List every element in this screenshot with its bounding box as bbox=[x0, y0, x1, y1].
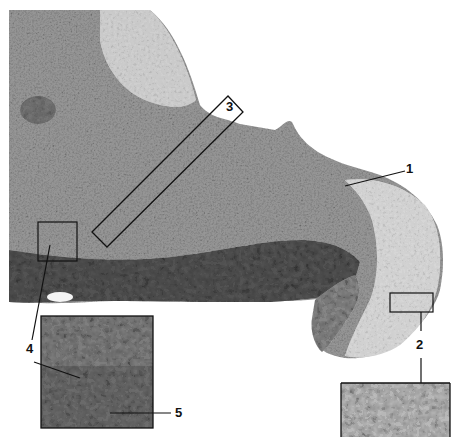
inset-4-5 bbox=[41, 316, 153, 428]
histology-figure: 1 2 3 4 5 bbox=[0, 0, 457, 437]
label-5: 5 bbox=[175, 406, 182, 419]
label-3: 3 bbox=[226, 100, 233, 113]
label-2: 2 bbox=[416, 338, 423, 351]
label-1: 1 bbox=[406, 162, 413, 175]
cell-cluster bbox=[20, 96, 56, 124]
label-4: 4 bbox=[26, 342, 33, 355]
inset-2 bbox=[341, 383, 450, 437]
micrograph-canvas bbox=[0, 0, 457, 437]
tissue-section bbox=[9, 10, 443, 358]
vessel-lumen bbox=[47, 292, 73, 302]
